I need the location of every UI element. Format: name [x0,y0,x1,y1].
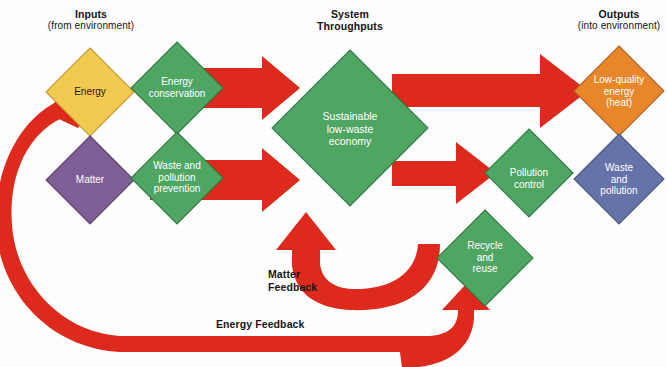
heading-inputs: Inputs (from environment) [16,8,166,32]
diagram-svg [0,0,667,367]
arrow-throughput-to-low-quality-energy [392,54,588,128]
label-matter-feedback-line2: Feedback [268,281,317,294]
node-low-quality-energy[interactable] [574,46,664,136]
heading-outputs-subtitle: (into environment) [544,20,667,32]
heading-outputs: Outputs (into environment) [544,8,667,32]
node-matter[interactable] [46,136,134,224]
arrow-throughput-to-pollution-control [392,142,496,204]
node-waste-and-pollution[interactable] [574,134,664,224]
heading-inputs-title: Inputs [75,8,107,20]
heading-throughputs: System Throughputs [275,8,425,32]
diagram-canvas: Inputs (from environment) System Through… [0,0,667,367]
heading-outputs-title: Outputs [599,8,640,20]
heading-throughputs-title: System [331,8,369,20]
node-waste-pollution-prevention[interactable] [131,132,223,224]
matter-feedback-arrow [276,212,440,310]
node-energy-conservation[interactable] [131,42,223,134]
label-energy-feedback: Energy Feedback [216,318,304,331]
node-recycle-reuse[interactable] [437,210,533,306]
label-matter-feedback-line1: Matter [268,268,317,281]
heading-throughputs-subtitle: Throughputs [275,20,425,32]
node-energy[interactable] [46,48,134,136]
label-matter-feedback: Matter Feedback [268,268,317,293]
heading-inputs-subtitle: (from environment) [16,20,166,32]
node-pollution-control[interactable] [485,129,573,217]
